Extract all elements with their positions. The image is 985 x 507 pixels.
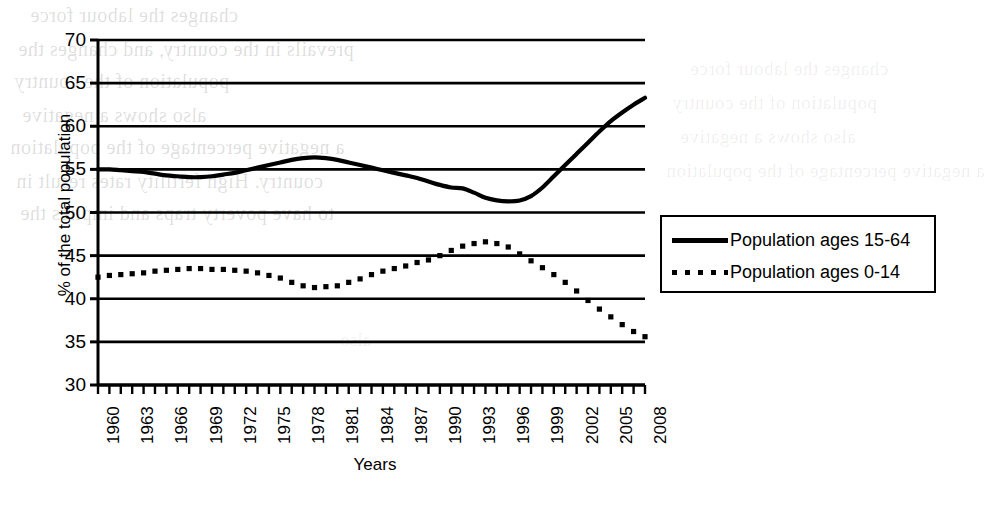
dot-population-0-14	[312, 285, 317, 290]
dot-population-0-14	[118, 272, 123, 277]
legend-item-label: Population ages 15-64	[730, 230, 910, 251]
dot-population-0-14	[358, 276, 363, 281]
dot-population-0-14	[323, 284, 328, 289]
dot-population-0-14	[335, 283, 340, 288]
line-population-15-64	[98, 98, 645, 201]
dot-population-0-14	[187, 266, 192, 271]
x-tick-label: 2008	[652, 406, 669, 444]
dot-population-0-14	[608, 314, 613, 319]
x-tick-label: 1966	[173, 406, 190, 444]
x-tick-label: 1972	[242, 406, 259, 444]
dot-population-0-14	[483, 239, 488, 244]
dot-population-0-14	[460, 244, 465, 249]
dot-population-0-14	[107, 273, 112, 278]
dot-population-0-14	[152, 269, 157, 274]
dot-population-0-14	[563, 280, 568, 285]
dot-population-0-14	[198, 266, 203, 271]
legend-item-label: Population ages 0-14	[730, 262, 900, 283]
dot-population-0-14	[528, 258, 533, 263]
dot-population-0-14	[232, 268, 237, 273]
legend-item-population-0-14: Population ages 0-14	[672, 256, 926, 288]
dot-population-0-14	[141, 270, 146, 275]
series-2	[95, 239, 647, 339]
dot-population-0-14	[449, 248, 454, 253]
x-tick-label: 1996	[515, 406, 532, 444]
dot-population-0-14	[164, 268, 169, 273]
dot-population-0-14	[620, 322, 625, 327]
x-tick-label: 1960	[105, 406, 122, 444]
dot-population-0-14	[494, 241, 499, 246]
dot-population-0-14	[255, 270, 260, 275]
legend-solid-line-icon	[672, 233, 728, 247]
dot-population-0-14	[414, 260, 419, 265]
gridlines	[98, 40, 645, 385]
dot-population-0-14	[642, 334, 647, 339]
dot-population-0-14	[380, 269, 385, 274]
dot-population-0-14	[506, 244, 511, 249]
dot-population-0-14	[392, 266, 397, 271]
x-tick-label: 1990	[447, 406, 464, 444]
x-tick-label: 1993	[481, 406, 498, 444]
y-axis-title: % of the total population	[55, 55, 75, 355]
dot-population-0-14	[585, 298, 590, 303]
chart-legend: Population ages 15-64 Population ages 0-…	[660, 215, 936, 293]
dot-population-0-14	[278, 275, 283, 280]
x-tick-label: 1999	[549, 406, 566, 444]
legend-item-population-15-64: Population ages 15-64	[672, 224, 926, 256]
x-tick-label: 2002	[584, 406, 601, 444]
series-1	[98, 98, 645, 201]
dot-population-0-14	[437, 253, 442, 258]
dot-population-0-14	[631, 329, 636, 334]
x-axis-title: Years	[250, 455, 500, 475]
dot-population-0-14	[471, 241, 476, 246]
x-tick-label: 1984	[379, 406, 396, 444]
dot-population-0-14	[574, 288, 579, 293]
dot-population-0-14	[244, 269, 249, 274]
x-tick-label: 1969	[208, 406, 225, 444]
dot-population-0-14	[175, 267, 180, 272]
y-tick-label: 30	[46, 375, 86, 394]
dot-population-0-14	[597, 307, 602, 312]
x-tick-label: 2005	[618, 406, 635, 444]
dot-population-0-14	[266, 273, 271, 278]
dot-population-0-14	[289, 280, 294, 285]
dot-population-0-14	[551, 272, 556, 277]
dot-population-0-14	[221, 267, 226, 272]
dot-population-0-14	[209, 267, 214, 272]
x-tick-label: 1987	[413, 406, 430, 444]
dot-population-0-14	[95, 275, 100, 280]
dot-population-0-14	[517, 251, 522, 256]
legend-dotted-line-icon	[672, 265, 728, 279]
dot-population-0-14	[301, 283, 306, 288]
dot-population-0-14	[130, 271, 135, 276]
dot-population-0-14	[403, 263, 408, 268]
dot-population-0-14	[369, 272, 374, 277]
x-tick-label: 1978	[310, 406, 327, 444]
dot-population-0-14	[540, 265, 545, 270]
y-tick-label: 70	[46, 30, 86, 49]
x-tick-label: 1981	[344, 406, 361, 444]
dot-population-0-14	[426, 257, 431, 262]
x-tick-label: 1963	[139, 406, 156, 444]
dot-population-0-14	[346, 280, 351, 285]
data-series-layer	[95, 98, 647, 340]
x-tick-label: 1975	[276, 406, 293, 444]
